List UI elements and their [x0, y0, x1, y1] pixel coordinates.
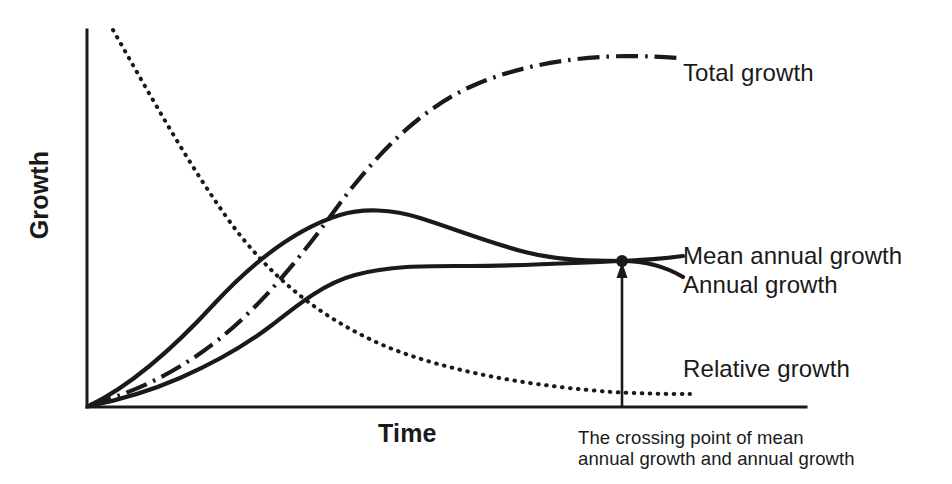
- crossing-point-annotation: The crossing point of meanannual growth …: [578, 427, 855, 470]
- series-mean-annual-growth: [89, 256, 683, 406]
- series-label-mean-annual-growth: Mean annual growth: [683, 243, 902, 270]
- series-label-total-growth: Total growth: [683, 60, 814, 87]
- crossing-point-annotation-line1: The crossing point of mean: [578, 427, 804, 448]
- growth-curves-figure: Growth Time Total growth Mean annual gro…: [0, 0, 952, 484]
- crossing-point-pointer: [616, 255, 628, 407]
- crossing-point-dot: [616, 255, 628, 267]
- series-total-growth: [90, 56, 677, 405]
- y-axis-title: Growth: [0, 178, 134, 212]
- x-axis-title: Time: [378, 419, 437, 447]
- series-label-annual-growth: Annual growth: [683, 272, 838, 299]
- series-label-relative-growth: Relative growth: [683, 356, 850, 383]
- crossing-point-annotation-line2: annual growth and annual growth: [578, 448, 855, 469]
